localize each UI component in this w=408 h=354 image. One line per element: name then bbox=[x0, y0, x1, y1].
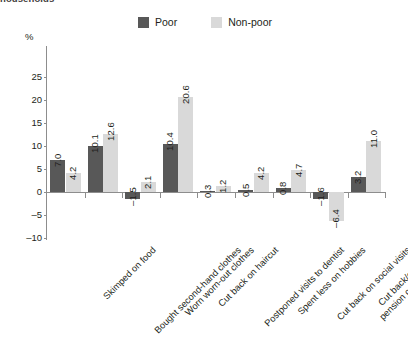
bar[interactable] bbox=[103, 134, 118, 192]
chart-title-clipped: households bbox=[0, 0, 54, 4]
chart-legend: Poor Non-poor bbox=[138, 16, 272, 28]
bar-value-label: –6.4 bbox=[330, 210, 341, 229]
legend-swatch-poor bbox=[138, 17, 149, 28]
legend-swatch-non-poor bbox=[211, 17, 222, 28]
y-axis-tick-label: 20 bbox=[0, 94, 42, 105]
x-axis-group-tick bbox=[197, 192, 198, 198]
y-axis-unit-label: % bbox=[25, 31, 33, 42]
bar-value-label: 1.2 bbox=[217, 180, 228, 194]
y-axis-tick-label: 10 bbox=[0, 140, 42, 151]
bar-value-label: 2.1 bbox=[142, 176, 153, 190]
y-axis-tick-label: –5 bbox=[0, 209, 42, 220]
bar-group: 0.84.7 bbox=[273, 46, 311, 240]
legend-label-poor: Poor bbox=[155, 16, 177, 28]
y-axis-tick-label: 0 bbox=[0, 186, 42, 197]
bar-group: 7.04.2 bbox=[47, 46, 85, 240]
x-axis-group-tick bbox=[160, 192, 161, 198]
bar-group: 10.112.6 bbox=[85, 46, 123, 240]
bar-value-label: –1.5 bbox=[127, 187, 138, 206]
bar-group: 3.211.0 bbox=[348, 46, 386, 240]
x-axis-group-tick bbox=[122, 192, 123, 198]
bar-group: –1.52.1 bbox=[122, 46, 160, 240]
bar-value-label: 12.6 bbox=[105, 122, 116, 141]
category-label-line: Skimped on food bbox=[101, 245, 157, 301]
bar-group: –1.6–6.4 bbox=[310, 46, 348, 240]
bar[interactable] bbox=[366, 141, 381, 192]
bar-value-label: 10.1 bbox=[89, 134, 100, 153]
bar-value-label: 4.7 bbox=[293, 164, 304, 178]
plot-area: 7.04.210.112.6–1.52.110.420.60.31.20.54.… bbox=[47, 46, 385, 240]
bar-value-label: 3.2 bbox=[352, 171, 363, 185]
bar-value-label: –1.6 bbox=[315, 187, 326, 206]
bar-value-label: 10.4 bbox=[164, 132, 175, 151]
bar-chart: households Poor Non-poor % 2520151050–5–… bbox=[0, 0, 408, 354]
bar-value-label: 4.2 bbox=[67, 166, 78, 180]
bar[interactable] bbox=[163, 144, 178, 192]
bar-value-label: 7.0 bbox=[52, 153, 63, 167]
legend-item-poor: Poor bbox=[138, 16, 177, 28]
bar-value-label: 0.5 bbox=[240, 183, 251, 197]
x-axis-category-label: Skimped on food bbox=[101, 245, 158, 302]
bar-group: 0.54.2 bbox=[235, 46, 273, 240]
x-axis-group-tick bbox=[385, 192, 386, 198]
bar-value-label: 20.6 bbox=[180, 85, 191, 104]
bar-value-label: 11.0 bbox=[368, 130, 379, 148]
bar-value-label: 0.8 bbox=[277, 182, 288, 196]
x-axis-group-tick bbox=[310, 192, 311, 198]
y-axis-tick-label: 25 bbox=[0, 71, 42, 82]
legend-label-non-poor: Non-poor bbox=[228, 16, 272, 28]
x-axis-group-tick bbox=[273, 192, 274, 198]
y-axis-tick-label: –10 bbox=[0, 232, 42, 243]
y-axis-tick-label: 5 bbox=[0, 163, 42, 174]
legend-item-non-poor: Non-poor bbox=[211, 16, 272, 28]
x-axis-group-tick bbox=[85, 192, 86, 198]
bar-value-label: 0.3 bbox=[202, 184, 213, 198]
y-axis-tick-label: 15 bbox=[0, 117, 42, 128]
bar-group: 0.31.2 bbox=[197, 46, 235, 240]
bar[interactable] bbox=[178, 97, 193, 192]
bar-value-label: 4.2 bbox=[255, 166, 266, 180]
bar-group: 10.420.6 bbox=[160, 46, 198, 240]
x-axis-group-tick bbox=[235, 192, 236, 198]
x-axis-group-tick bbox=[348, 192, 349, 198]
